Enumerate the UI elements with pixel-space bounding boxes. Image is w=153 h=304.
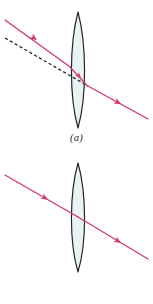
optics-figure: (a) (b) xyxy=(0,0,153,304)
panel-b-canvas xyxy=(0,152,153,304)
incident-ray xyxy=(5,175,78,217)
emergent-ray-arrow xyxy=(113,236,123,245)
figure-panel-a: (a) xyxy=(0,0,153,152)
figure-panel-b: (b) xyxy=(0,152,153,304)
incident-ray xyxy=(5,20,70,67)
emergent-ray xyxy=(78,217,148,259)
incident-ray-arrow xyxy=(40,193,50,202)
panel-a-caption: (a) xyxy=(0,133,153,144)
emergent-ray-arrow xyxy=(113,98,122,107)
panel-a-canvas xyxy=(0,0,153,152)
